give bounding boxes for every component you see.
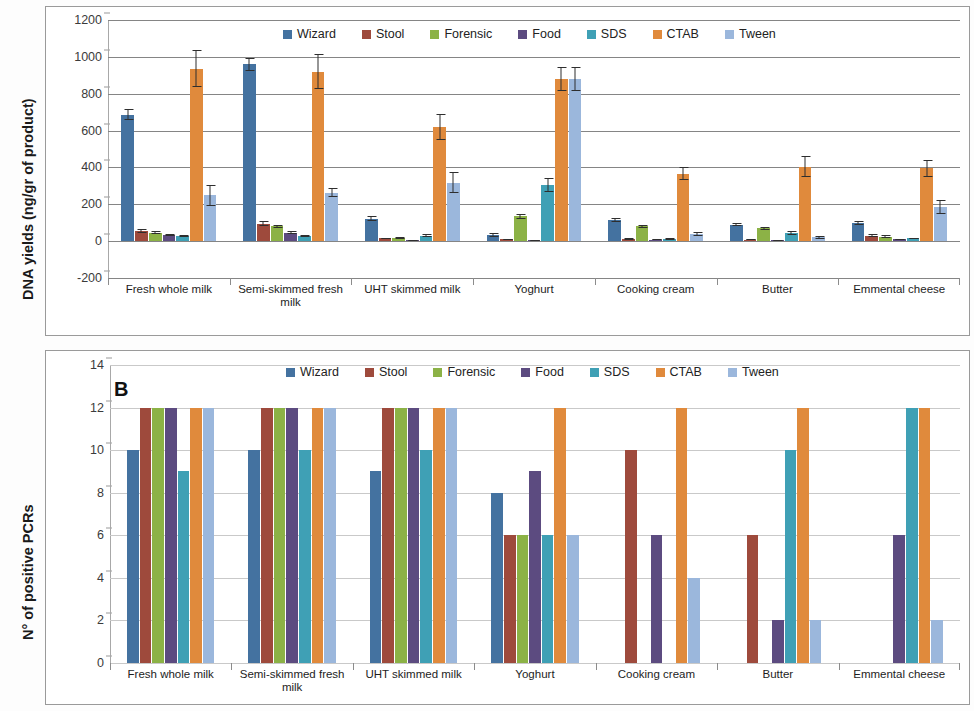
bar-tween[interactable] (812, 237, 825, 241)
bar-sds[interactable] (542, 535, 554, 663)
bar-wizard[interactable] (127, 450, 139, 663)
bar-tween[interactable] (325, 193, 338, 241)
bar-ctab[interactable] (676, 408, 688, 663)
bar-ctab[interactable] (920, 168, 933, 241)
bar-sds[interactable] (541, 185, 554, 241)
bar-slot-stool (622, 20, 635, 278)
bar-sds[interactable] (420, 236, 433, 242)
bar-stool[interactable] (504, 535, 516, 663)
bar-tween[interactable] (934, 207, 947, 241)
bar-stool[interactable] (135, 231, 148, 241)
bar-ctab[interactable] (554, 408, 566, 663)
bar-food[interactable] (163, 235, 176, 241)
bar-ctab[interactable] (797, 408, 809, 663)
bar-ctab[interactable] (433, 127, 446, 241)
bar-ctab[interactable] (799, 167, 812, 242)
bar-ctab[interactable] (555, 79, 568, 241)
bar-slot-ctab (190, 20, 203, 278)
bar-tween[interactable] (203, 408, 215, 663)
bar-tween[interactable] (324, 408, 336, 663)
bar-ctab[interactable] (312, 408, 324, 663)
bar-tween[interactable] (810, 620, 822, 663)
bar-wizard[interactable] (370, 471, 382, 663)
bar-food[interactable] (771, 240, 784, 241)
bar-food[interactable] (284, 233, 297, 241)
bar-forensic[interactable] (271, 226, 284, 241)
bar-stool[interactable] (744, 240, 757, 241)
bar-ctab[interactable] (190, 408, 202, 663)
bar-stool[interactable] (622, 239, 635, 241)
bar-tween[interactable] (204, 195, 217, 241)
bar-stool[interactable] (257, 224, 270, 242)
bar-forensic[interactable] (395, 408, 407, 663)
bar-ctab[interactable] (919, 408, 931, 663)
bar-sds[interactable] (906, 408, 918, 663)
bar-ctab[interactable] (433, 408, 445, 663)
bar-ctab[interactable] (312, 72, 325, 242)
bar-wizard[interactable] (852, 223, 865, 241)
bar-stool[interactable] (747, 535, 759, 663)
bar-food[interactable] (651, 535, 663, 663)
bar-tween[interactable] (688, 578, 700, 663)
bar-stool[interactable] (379, 238, 392, 241)
bar-stool[interactable] (140, 408, 152, 663)
y-tick-label: 600 (81, 124, 102, 138)
bar-food[interactable] (893, 239, 906, 241)
category-label: Butter (717, 283, 839, 309)
bar-sds[interactable] (907, 238, 920, 241)
bar-sds[interactable] (785, 233, 798, 241)
bar-food[interactable] (165, 408, 177, 663)
bar-sds[interactable] (298, 236, 311, 242)
legend-item-wizard: Wizard (283, 27, 336, 41)
bar-stool[interactable] (625, 450, 637, 663)
bar-sds[interactable] (176, 236, 189, 241)
bar-group-inner (734, 365, 821, 663)
bar-sds[interactable] (663, 239, 676, 241)
bar-sds[interactable] (420, 450, 432, 663)
bar-stool[interactable] (261, 408, 273, 663)
bar-sds[interactable] (299, 450, 311, 663)
bar-wizard[interactable] (487, 235, 500, 241)
bar-food[interactable] (529, 471, 541, 663)
bar-stool[interactable] (865, 236, 878, 242)
bar-wizard[interactable] (491, 493, 503, 663)
bar-forensic[interactable] (517, 535, 529, 663)
bar-wizard[interactable] (243, 64, 256, 241)
bar-tween[interactable] (931, 620, 943, 663)
bar-food[interactable] (649, 240, 662, 241)
bar-food[interactable] (286, 408, 298, 663)
bar-tween[interactable] (446, 408, 458, 663)
bar-food[interactable] (528, 240, 541, 241)
bar-wizard[interactable] (365, 219, 378, 241)
bar-tween[interactable] (690, 234, 703, 241)
bar-slot-wizard (613, 365, 625, 663)
bar-forensic[interactable] (757, 228, 770, 241)
bar-food[interactable] (893, 535, 905, 663)
bar-forensic[interactable] (274, 408, 286, 663)
bar-food[interactable] (772, 620, 784, 663)
bar-wizard[interactable] (608, 220, 621, 241)
bar-tween[interactable] (567, 535, 579, 663)
bar-forensic[interactable] (636, 226, 649, 241)
bar-stool[interactable] (382, 408, 394, 663)
bar-sds[interactable] (178, 471, 190, 663)
bar-tween[interactable] (569, 79, 582, 241)
bar-wizard[interactable] (248, 450, 260, 663)
bar-forensic[interactable] (152, 408, 164, 663)
bar-forensic[interactable] (879, 237, 892, 242)
bar-food[interactable] (408, 408, 420, 663)
bar-tween[interactable] (447, 183, 460, 242)
bar-wizard[interactable] (730, 225, 743, 242)
bar-stool[interactable] (500, 239, 513, 241)
bar-sds[interactable] (785, 450, 797, 663)
bar-food[interactable] (406, 240, 419, 241)
bar-ctab[interactable] (190, 69, 203, 241)
bar-slot-wizard (248, 365, 260, 663)
bar-wizard[interactable] (121, 115, 134, 241)
bar-ctab[interactable] (677, 174, 690, 241)
bar-slot-tween (204, 20, 217, 278)
bar-forensic[interactable] (392, 238, 405, 241)
bar-slot-food (529, 365, 541, 663)
bar-forensic[interactable] (149, 233, 162, 241)
bar-forensic[interactable] (514, 216, 527, 241)
